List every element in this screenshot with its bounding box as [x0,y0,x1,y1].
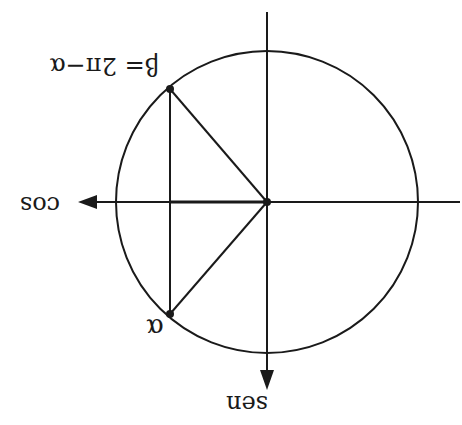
diagram-svg: β= 2π−α α cos sen [0,0,462,425]
label-cos: cos [20,191,60,219]
label-sen: sen [226,390,268,418]
cos-arrow-icon [78,195,97,209]
label-beta: β= 2π−α [50,52,159,80]
point-alpha [166,310,174,318]
center-point [263,198,271,206]
unit-circle-diagram: β= 2π−α α cos sen [0,0,462,425]
radius-alpha [170,202,267,314]
point-beta [166,85,174,93]
radius-beta [170,89,267,202]
label-alpha: α [146,313,164,343]
sen-arrow-icon [260,370,274,390]
